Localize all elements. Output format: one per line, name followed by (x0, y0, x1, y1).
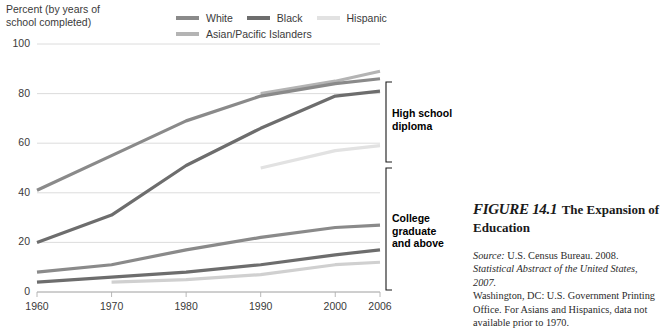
figure-source: Source: U.S. Census Bureau. 2008.Statist… (473, 249, 663, 328)
figure-page: Percent (by years ofschool completed) Wh… (0, 0, 665, 328)
bracket-label-line: graduate (392, 225, 444, 238)
x-axis-tick-label: 2000 (315, 300, 355, 312)
y-axis-tick-label: 0 (4, 285, 30, 297)
source-emphasis: Source: (473, 250, 505, 261)
y-axis-tick-label: 80 (4, 87, 30, 99)
y-axis-tick-label: 60 (4, 136, 30, 148)
series-line-hispanic (261, 146, 380, 168)
series-line-asian-pacific-islanders (261, 71, 380, 93)
source-line: Washington, DC: U.S. Government Printing (473, 289, 663, 302)
source-emphasis: Statistical Abstract of the United State… (473, 263, 638, 287)
bracket-lines (378, 0, 408, 328)
y-axis-tick-label: 20 (4, 235, 30, 247)
x-axis-tick-label: 1990 (241, 300, 281, 312)
figure-caption: FIGURE 14.1 The Expansion of Education (473, 200, 661, 236)
bracket-label-line: College (392, 212, 444, 225)
series-line-white (37, 79, 380, 191)
source-line: Source: U.S. Census Bureau. 2008. (473, 249, 663, 262)
bracket-label-line: High school (392, 107, 452, 120)
figure-number: FIGURE 14.1 (473, 201, 557, 217)
x-axis-tick-label: 1960 (17, 300, 57, 312)
y-axis-tick-label: 40 (4, 186, 30, 198)
source-line: Office. For Asians and Hispanics, data n… (473, 303, 663, 316)
bracket-label-high-school: High schooldiploma (392, 107, 452, 132)
bracket-label-line: and above (392, 237, 444, 250)
chart-svg (0, 0, 400, 300)
source-line: Statistical Abstract of the United State… (473, 262, 663, 289)
chart-plot-area: 020406080100 196019701980199020002006 (0, 0, 400, 300)
x-axis-tick-label: 1970 (92, 300, 132, 312)
source-line: available prior to 1970. (473, 316, 663, 328)
x-axis-tick-label: 1980 (166, 300, 206, 312)
y-axis-tick-label: 100 (4, 37, 30, 49)
bracket-label-line: diploma (392, 120, 452, 133)
bracket-label-college: Collegegraduateand above (392, 212, 444, 250)
